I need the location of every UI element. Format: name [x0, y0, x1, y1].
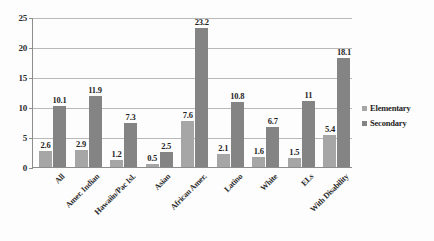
- legend-label-secondary: Secondary: [370, 118, 406, 128]
- y-axis-tick-label: 5: [23, 133, 27, 143]
- bar-value-label: 2.1: [218, 143, 228, 153]
- bar-value-label: 1.5: [289, 147, 299, 157]
- bar-elementary: 1.5: [288, 158, 301, 167]
- bar-group: 2.610.1: [33, 18, 69, 167]
- y-axis-tick-label: 20: [18, 43, 27, 53]
- y-axis-tick-label: 10: [18, 103, 27, 113]
- plot-area: 0510152025 2.610.12.911.91.27.30.52.57.6…: [32, 18, 352, 168]
- bar-group: 7.623.2: [175, 18, 211, 167]
- legend-swatch-elementary: [362, 106, 367, 111]
- bar-group: 1.66.7: [246, 18, 282, 167]
- bar-secondary: 11: [302, 101, 315, 167]
- legend-item-elementary: Elementary: [362, 103, 411, 113]
- bar-elementary: 2.6: [39, 151, 52, 167]
- bar-group: 1.27.3: [104, 18, 140, 167]
- category-label: African Amer.: [169, 172, 209, 212]
- bar-elementary: 5.4: [323, 135, 336, 167]
- category-label: Amer. Indian: [64, 172, 102, 210]
- bar-value-label: 1.2: [112, 149, 122, 159]
- bar-value-label: 0.5: [147, 153, 157, 163]
- bar-value-label: 7.3: [126, 112, 136, 122]
- bar-secondary: 18.1: [337, 58, 350, 167]
- bar-secondary: 6.7: [266, 127, 279, 167]
- bar-secondary: 10.1: [53, 106, 66, 167]
- bar-group: 2.110.8: [211, 18, 247, 167]
- y-axis-tick: [29, 168, 33, 169]
- category-label: Latino: [222, 172, 244, 194]
- y-axis-tick-label: 25: [18, 13, 27, 23]
- y-axis-tick-label: 15: [18, 73, 27, 83]
- bar-chart: 0510152025 2.610.12.911.91.27.30.52.57.6…: [0, 0, 434, 241]
- bar-value-label: 11: [305, 90, 313, 100]
- bar-secondary: 10.8: [231, 102, 244, 167]
- bar-group: 1.511: [282, 18, 318, 167]
- bar-secondary: 2.5: [160, 152, 173, 167]
- legend-item-secondary: Secondary: [362, 118, 411, 128]
- bar-secondary: 11.9: [89, 96, 102, 167]
- category-label: Asian: [153, 172, 173, 192]
- chart-legend: Elementary Secondary: [362, 103, 411, 133]
- bar-value-label: 2.6: [40, 140, 50, 150]
- bar-secondary: 7.3: [124, 123, 137, 167]
- bar-elementary: 1.6: [252, 157, 265, 167]
- bar-value-label: 10.8: [230, 91, 244, 101]
- legend-label-elementary: Elementary: [370, 103, 411, 113]
- bar-value-label: 1.6: [254, 146, 264, 156]
- category-label: All: [53, 172, 66, 185]
- bar-group: 5.418.1: [317, 18, 353, 167]
- bar-group: 2.911.9: [69, 18, 105, 167]
- bar-value-label: 5.4: [325, 124, 335, 134]
- bar-value-label: 7.6: [183, 110, 193, 120]
- bar-value-label: 23.2: [195, 17, 209, 27]
- legend-swatch-secondary: [362, 121, 367, 126]
- bar-elementary: 0.5: [146, 164, 159, 167]
- bar-secondary: 23.2: [195, 28, 208, 167]
- bar-value-label: 6.7: [268, 116, 278, 126]
- category-label: ELs: [299, 172, 315, 188]
- bar-elementary: 1.2: [110, 160, 123, 167]
- y-axis-tick-label: 0: [23, 163, 27, 173]
- bar-value-label: 18.1: [337, 47, 351, 57]
- bar-value-label: 2.5: [161, 141, 171, 151]
- bar-group: 0.52.5: [140, 18, 176, 167]
- bar-value-label: 2.9: [76, 139, 86, 149]
- bar-value-label: 10.1: [52, 95, 66, 105]
- bar-elementary: 2.1: [217, 154, 230, 167]
- bar-value-label: 11.9: [88, 85, 102, 95]
- category-label: White: [259, 172, 280, 193]
- bar-elementary: 2.9: [75, 150, 88, 167]
- bar-elementary: 7.6: [181, 121, 194, 167]
